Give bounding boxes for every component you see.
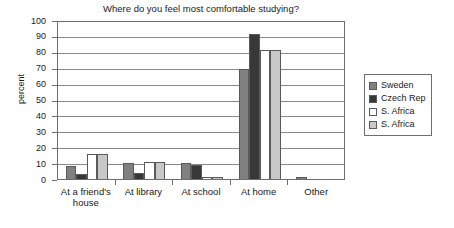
bar bbox=[296, 177, 307, 179]
legend-item[interactable]: S. Africa bbox=[369, 118, 426, 131]
bar bbox=[249, 34, 260, 179]
x-tick-label: Other bbox=[287, 186, 345, 197]
legend-item[interactable]: Sweden bbox=[369, 79, 426, 92]
legend-swatch-icon bbox=[369, 95, 377, 103]
bar bbox=[260, 50, 271, 179]
bar bbox=[202, 177, 213, 179]
x-axis-separator bbox=[115, 180, 116, 185]
bar bbox=[76, 174, 87, 179]
bar bbox=[87, 154, 98, 179]
bar-group bbox=[173, 22, 231, 179]
bar bbox=[123, 163, 134, 179]
x-tick-label-line: At a friend's bbox=[57, 186, 115, 197]
y-tick-label: 60 bbox=[0, 80, 46, 89]
bar bbox=[239, 69, 250, 179]
y-tick-label: 90 bbox=[0, 32, 46, 41]
legend-item[interactable]: S. Africa bbox=[369, 105, 426, 118]
x-tick-label: At home bbox=[230, 186, 288, 197]
bar-chart-figure: Where do you feel most comfortable study… bbox=[0, 0, 454, 228]
bar bbox=[144, 162, 155, 179]
legend-label: Czech Rep bbox=[381, 94, 426, 103]
bar bbox=[191, 165, 202, 179]
x-tick-label-line: Other bbox=[287, 186, 345, 197]
legend-item[interactable]: Czech Rep bbox=[369, 92, 426, 105]
x-tick-label-line: house bbox=[57, 197, 115, 208]
bar-group bbox=[288, 22, 346, 179]
y-tick-label: 80 bbox=[0, 48, 46, 57]
x-axis-separator bbox=[172, 180, 173, 185]
plot-area bbox=[57, 21, 345, 180]
legend-label: S. Africa bbox=[381, 120, 415, 129]
bar-group bbox=[231, 22, 289, 179]
y-tick-label: 0 bbox=[0, 176, 46, 185]
bar-group bbox=[58, 22, 116, 179]
y-tick-mark bbox=[52, 180, 57, 181]
y-tick-label: 100 bbox=[0, 17, 46, 26]
bar bbox=[66, 166, 77, 179]
x-axis-separator bbox=[230, 180, 231, 185]
x-tick-label-line: At library bbox=[115, 186, 173, 197]
x-tick-label-line: At school bbox=[172, 186, 230, 197]
x-tick-label: At a friend'shouse bbox=[57, 186, 115, 208]
y-tick-label: 20 bbox=[0, 144, 46, 153]
legend-label: S. Africa bbox=[381, 107, 415, 116]
y-tick-label: 40 bbox=[0, 112, 46, 121]
x-axis-separator bbox=[287, 180, 288, 185]
legend-label: Sweden bbox=[381, 81, 414, 90]
x-tick-label-line: At home bbox=[230, 186, 288, 197]
bar bbox=[181, 163, 192, 179]
legend-swatch-icon bbox=[369, 121, 377, 129]
bar bbox=[270, 50, 281, 179]
legend-swatch-icon bbox=[369, 108, 377, 116]
y-tick-label: 70 bbox=[0, 64, 46, 73]
bar bbox=[97, 154, 108, 179]
y-tick-label: 10 bbox=[0, 160, 46, 169]
chart-legend: SwedenCzech RepS. AfricaS. Africa bbox=[364, 74, 432, 136]
y-tick-label: 30 bbox=[0, 128, 46, 137]
bar bbox=[155, 162, 166, 179]
y-tick-label: 50 bbox=[0, 96, 46, 105]
bar-group bbox=[116, 22, 174, 179]
legend-swatch-icon bbox=[369, 82, 377, 90]
chart-title: Where do you feel most comfortable study… bbox=[57, 3, 345, 15]
x-tick-label: At library bbox=[115, 186, 173, 197]
bar bbox=[134, 173, 145, 179]
bar bbox=[212, 177, 223, 179]
x-tick-label: At school bbox=[172, 186, 230, 197]
